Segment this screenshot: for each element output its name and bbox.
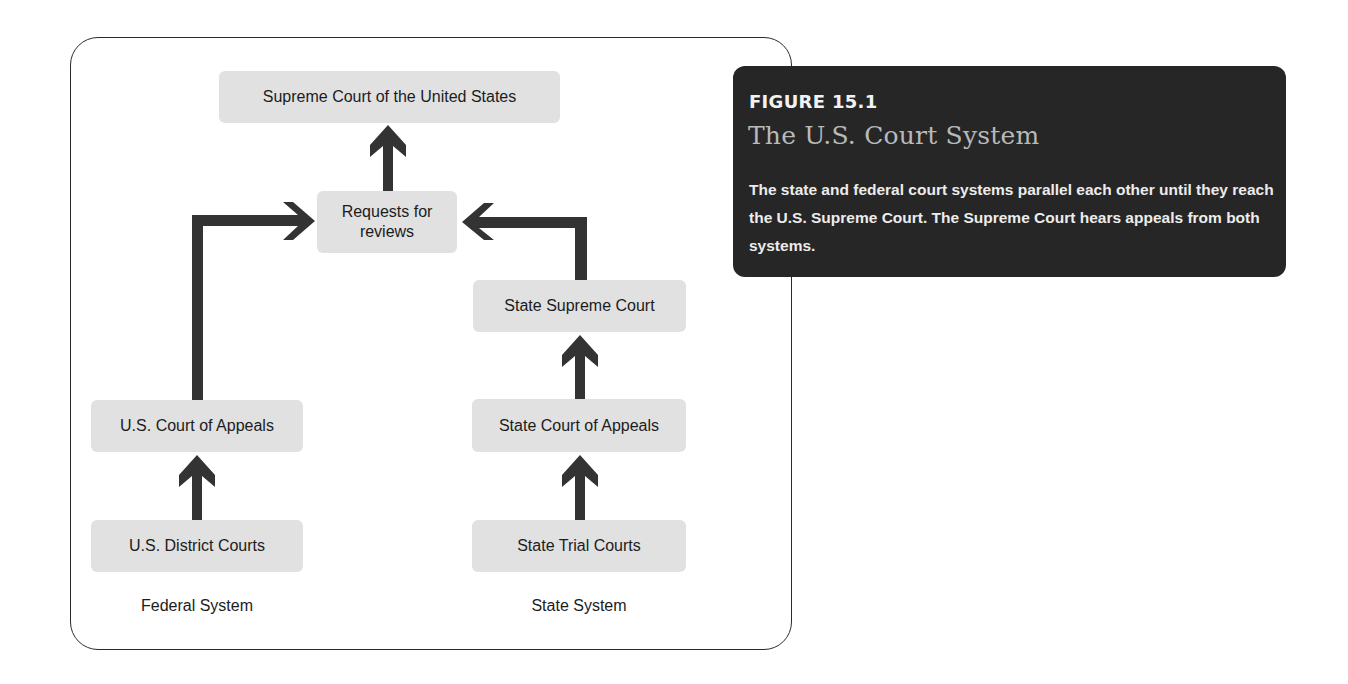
node-us-court-of-appeals: U.S. Court of Appeals bbox=[91, 400, 303, 452]
node-label-line2: reviews bbox=[360, 222, 414, 242]
node-label-line1: Requests for bbox=[342, 202, 433, 222]
node-label: Supreme Court of the United States bbox=[263, 87, 516, 107]
node-state-trial-courts: State Trial Courts bbox=[472, 520, 686, 572]
node-requests-for-reviews: Requests for reviews bbox=[317, 191, 457, 253]
label-federal-system: Federal System bbox=[91, 596, 303, 616]
label-state-system: State System bbox=[472, 596, 686, 616]
node-state-court-of-appeals: State Court of Appeals bbox=[472, 399, 686, 452]
node-supreme-court-us: Supreme Court of the United States bbox=[219, 71, 560, 123]
node-label: U.S. District Courts bbox=[129, 536, 265, 556]
node-label: State Court of Appeals bbox=[499, 416, 659, 436]
node-state-supreme-court: State Supreme Court bbox=[473, 280, 686, 332]
figure-description: The state and federal court systems para… bbox=[749, 176, 1274, 260]
figure-number: FIGURE 15.1 bbox=[749, 91, 878, 112]
figure-caption: FIGURE 15.1 The U.S. Court System The st… bbox=[733, 66, 1286, 277]
node-label: State Trial Courts bbox=[517, 536, 641, 556]
node-label: State Supreme Court bbox=[504, 296, 654, 316]
node-us-district-courts: U.S. District Courts bbox=[91, 520, 303, 572]
node-label: U.S. Court of Appeals bbox=[120, 416, 274, 436]
figure-title: The U.S. Court System bbox=[748, 121, 1039, 150]
